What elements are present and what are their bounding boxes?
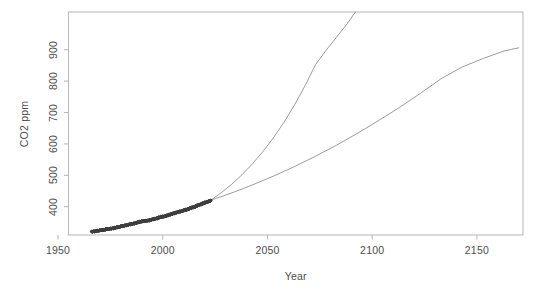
plot-canvas bbox=[0, 0, 548, 307]
y-tick-label-700: 700 bbox=[47, 103, 59, 121]
observed-co2-measurements bbox=[90, 199, 212, 233]
x-tick-label-2100: 2100 bbox=[360, 244, 384, 256]
x-tick-label-1950: 1950 bbox=[46, 244, 70, 256]
x-tick-label-2150: 2150 bbox=[465, 244, 489, 256]
y-tick-label-800: 800 bbox=[47, 72, 59, 90]
y-tick-label-600: 600 bbox=[47, 135, 59, 153]
plot-frame bbox=[69, 12, 524, 235]
y-tick-label-900: 900 bbox=[47, 41, 59, 59]
x-axis-title: Year bbox=[285, 270, 307, 282]
axis-tick-marks bbox=[58, 50, 477, 240]
y-axis-title: CO2 ppm bbox=[18, 100, 30, 146]
moderate-emissions-projection bbox=[211, 48, 519, 200]
co2-projection-chart: 19502000205021002150 400500600700800900 … bbox=[0, 0, 548, 307]
x-tick-label-2000: 2000 bbox=[151, 244, 175, 256]
y-tick-label-400: 400 bbox=[47, 198, 59, 216]
y-tick-label-500: 500 bbox=[47, 166, 59, 184]
x-tick-label-2050: 2050 bbox=[255, 244, 279, 256]
projection-curves bbox=[211, 12, 519, 200]
observed-data-points bbox=[90, 199, 212, 233]
